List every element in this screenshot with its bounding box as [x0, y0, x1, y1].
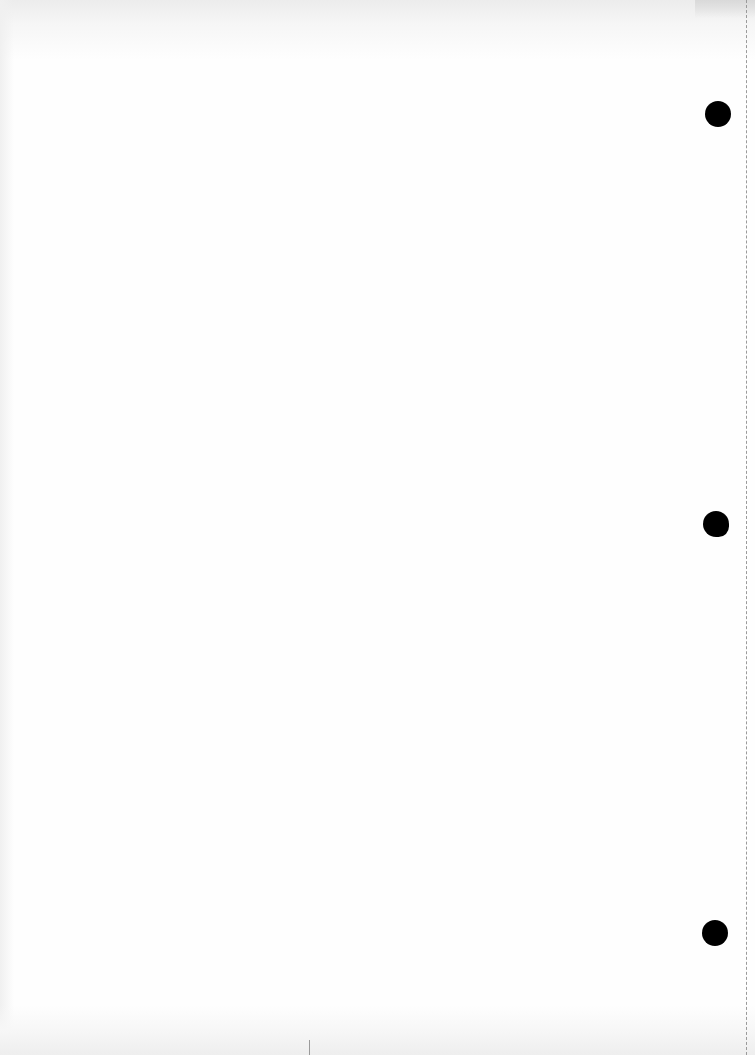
- punch-hole-icon: [703, 511, 729, 537]
- dashed-fold-line: [746, 0, 747, 1055]
- blank-page: [0, 0, 755, 1055]
- punch-hole-icon: [702, 920, 728, 946]
- scan-shading-left: [0, 0, 14, 1055]
- bottom-tick-mark: [309, 1040, 310, 1055]
- punch-hole-icon: [705, 101, 731, 127]
- scan-shading-top: [0, 0, 755, 60]
- scan-shading-bottom: [0, 1005, 755, 1055]
